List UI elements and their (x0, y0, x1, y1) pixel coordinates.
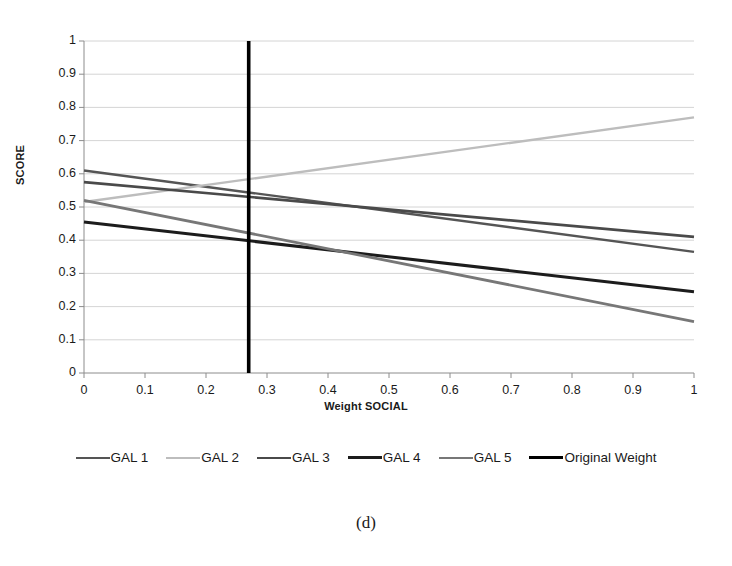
chart-canvas (0, 0, 732, 430)
legend-swatch-gal-3 (257, 457, 291, 459)
legend-item-gal-4[interactable]: GAL 4 (348, 450, 421, 465)
legend-label-gal-5: GAL 5 (474, 450, 512, 465)
y-tick-label: 0.7 (32, 133, 76, 147)
x-tick-label: 0 (62, 383, 106, 397)
x-tick-label: 0.4 (306, 383, 350, 397)
legend-swatch-gal-1 (76, 457, 110, 459)
series-line-gal-5 (84, 200, 694, 321)
legend-item-gal-5[interactable]: GAL 5 (439, 450, 512, 465)
y-tick-label: 0.5 (32, 199, 76, 213)
y-tick-label: 1 (32, 33, 76, 47)
x-tick-label: 0.3 (245, 383, 289, 397)
x-tick-label: 0.1 (123, 383, 167, 397)
data-series-layer (84, 117, 694, 321)
legend-label-gal-3: GAL 3 (292, 450, 330, 465)
y-tick-label: 0.3 (32, 265, 76, 279)
x-tick-label: 0.7 (489, 383, 533, 397)
series-line-gal-4 (84, 222, 694, 292)
y-tick-label: 0 (32, 365, 76, 379)
x-tick-label: 0.9 (611, 383, 655, 397)
legend-label-gal-1: GAL 1 (111, 450, 149, 465)
legend-item-gal-3[interactable]: GAL 3 (257, 450, 330, 465)
figure-panel-d: SCORE Weight SOCIAL 00.10.20.30.40.50.60… (0, 0, 732, 566)
y-tick-label: 0.8 (32, 99, 76, 113)
line-chart: SCORE Weight SOCIAL 00.10.20.30.40.50.60… (0, 0, 732, 430)
x-tick-label: 0.8 (550, 383, 594, 397)
y-tick-label: 0.9 (32, 66, 76, 80)
figure-caption: (d) (0, 513, 732, 533)
y-tick-label: 0.6 (32, 166, 76, 180)
legend-label-gal-4: GAL 4 (383, 450, 421, 465)
x-axis-title: Weight SOCIAL (0, 400, 732, 412)
x-tick-label: 0.6 (428, 383, 472, 397)
series-line-gal-3 (84, 182, 694, 237)
legend-label-original-weight: Original Weight (564, 450, 656, 465)
legend-swatch-gal-5 (439, 457, 473, 459)
legend-item-original-weight[interactable]: Original Weight (529, 450, 656, 465)
y-tick-label: 0.1 (32, 332, 76, 346)
x-tick-label: 0.5 (367, 383, 411, 397)
y-tick-label: 0.4 (32, 232, 76, 246)
legend-item-gal-2[interactable]: GAL 2 (166, 450, 239, 465)
x-tick-label: 1 (672, 383, 716, 397)
legend-swatch-gal-4 (348, 456, 382, 459)
legend-swatch-original-weight (529, 456, 563, 459)
y-tick-label: 0.2 (32, 299, 76, 313)
legend-label-gal-2: GAL 2 (201, 450, 239, 465)
series-line-gal-1 (84, 170, 694, 251)
legend-swatch-gal-2 (166, 457, 200, 459)
chart-legend: GAL 1GAL 2GAL 3GAL 4GAL 5Original Weight (0, 450, 732, 465)
legend-item-gal-1[interactable]: GAL 1 (76, 450, 149, 465)
x-tick-label: 0.2 (184, 383, 228, 397)
y-axis-title: SCORE (14, 145, 26, 185)
